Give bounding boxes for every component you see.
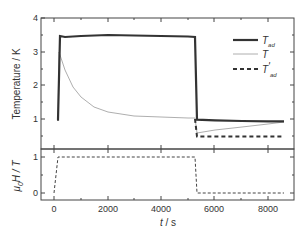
xtick-0: 0 xyxy=(51,204,56,214)
xtick-2000: 2000 xyxy=(98,204,118,214)
top-ytick-2: 2 xyxy=(33,80,38,90)
top-y-axis-label: Temperature / K xyxy=(11,48,22,119)
xtick-8000: 8000 xyxy=(258,204,278,214)
legend: Tad T T'ad xyxy=(233,35,277,78)
bottom-ytick-1: 1 xyxy=(33,152,38,162)
series-field-line xyxy=(54,157,284,193)
xtick-4000: 4000 xyxy=(151,204,171,214)
top-ytick-1: 1 xyxy=(33,114,38,124)
top-ytick-3: 3 xyxy=(33,47,38,57)
xtick-6000: 6000 xyxy=(204,204,224,214)
chart-figure: 1 2 3 4 0 1 0 2000 4000 6000 8000 Temper… xyxy=(0,0,303,237)
top-y-ticks xyxy=(41,18,294,200)
bottom-y-axis-label: μ0H / T xyxy=(11,160,24,193)
top-ytick-4: 4 xyxy=(33,13,38,23)
legend-T-ad-label: Tad xyxy=(262,35,275,48)
bottom-ytick-0: 0 xyxy=(33,188,38,198)
top-panel-frame xyxy=(41,18,294,149)
series-T-ad-line xyxy=(57,35,284,121)
legend-T-label: T xyxy=(262,49,269,60)
legend-T-ad-prime-label: T'ad xyxy=(262,61,277,78)
x-axis-label: t / s xyxy=(160,217,176,228)
